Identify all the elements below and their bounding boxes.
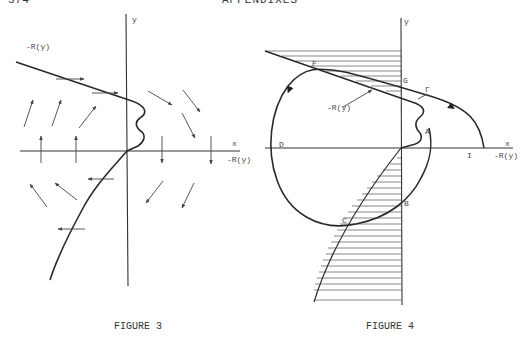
fig4-x-sub-label: -R(y)	[494, 151, 518, 160]
fig4-point-A: A	[425, 127, 430, 136]
fig3-curve-label: -R(y)	[26, 42, 50, 51]
fig4-point-I: I	[467, 151, 472, 160]
fig3-x-sub-label: -R(y)	[227, 155, 251, 164]
fig3-y-label: y	[132, 15, 137, 24]
figure-4: y x -R(y) -R(y) F G A D I B C Γ FIGURE 4	[265, 17, 518, 332]
fig4-trajectory-gamma	[271, 69, 484, 226]
fig4-caption: FIGURE 4	[366, 321, 414, 332]
fig4-y-label: y	[404, 17, 409, 26]
fig3-direction-arrows	[24, 79, 211, 229]
fig4-point-G: G	[403, 76, 408, 85]
fig3-x-label: x	[232, 139, 237, 148]
fig4-y-axis	[401, 18, 402, 305]
fig3-caption: FIGURE 3	[114, 321, 162, 332]
fig4-curve-label-pointer	[343, 90, 372, 107]
fig4-x-label: x	[505, 139, 510, 148]
fig4-curve-r-of-y	[265, 51, 424, 148]
figure-3: y x -R(y) -R(y) FIGURE 3	[16, 14, 251, 332]
fig3-curve-r-of-y	[16, 62, 145, 280]
fig4-point-B: B	[404, 199, 409, 208]
fig4-point-C: C	[342, 216, 347, 225]
fig4-point-F: F	[312, 59, 317, 68]
figures-canvas: y x -R(y) -R(y) FIGURE 3	[0, 0, 528, 338]
fig4-gamma-pointer	[418, 94, 427, 99]
fig4-point-D: D	[279, 140, 284, 149]
fig4-gamma-label: Γ	[425, 85, 430, 94]
